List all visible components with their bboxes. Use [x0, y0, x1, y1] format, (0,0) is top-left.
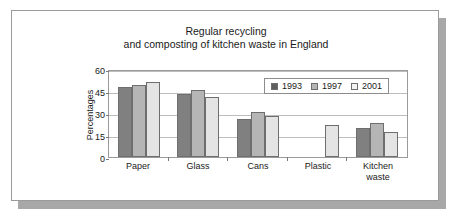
y-axis-tick-mark: [106, 159, 109, 160]
x-axis-tick-labels: PaperGlassCansPlasticKitchen waste: [108, 161, 408, 183]
legend-label: 2001: [362, 81, 382, 91]
legend-swatch-1993: [271, 83, 278, 90]
legend-swatch-2001: [351, 83, 358, 90]
bar: [132, 85, 146, 157]
chart-legend: 199319972001: [264, 78, 389, 94]
chart-card: Regular recycling and composting of kitc…: [11, 10, 439, 201]
bar: [384, 132, 398, 157]
legend-item: 2001: [351, 81, 382, 91]
chart-title: Regular recycling and composting of kitc…: [12, 25, 440, 51]
legend-label: 1993: [282, 81, 302, 91]
x-axis-tick-label: Plastic: [288, 161, 348, 183]
bar: [118, 87, 132, 157]
x-axis-tick-label: Glass: [168, 161, 228, 183]
y-axis-tick-label: 30: [75, 110, 105, 120]
bar: [325, 125, 339, 157]
legend-item: 1997: [311, 81, 342, 91]
bar: [251, 112, 265, 157]
bar: [370, 123, 384, 157]
bar-group: [169, 71, 229, 157]
bar: [237, 119, 251, 157]
x-axis-tick-label: Kitchen waste: [348, 161, 408, 183]
x-axis-tick-label: Cans: [228, 161, 288, 183]
bar: [205, 97, 219, 157]
bar: [191, 90, 205, 157]
legend-swatch-1997: [311, 83, 318, 90]
y-axis-tick-label: 0: [75, 154, 105, 164]
bar: [265, 116, 279, 157]
bar-group: [109, 71, 169, 157]
figure-root: Regular recycling and composting of kitc…: [0, 0, 454, 217]
legend-label: 1997: [322, 81, 342, 91]
x-axis-tick-label: Paper: [108, 161, 168, 183]
y-axis-tick-label: 15: [75, 132, 105, 142]
y-axis-tick-label: 60: [75, 66, 105, 76]
bar: [146, 82, 160, 157]
bar: [177, 94, 191, 157]
legend-item: 1993: [271, 81, 302, 91]
plot-area: Percentages 015304560 199319972001: [108, 70, 408, 158]
bar: [356, 128, 370, 157]
y-axis-tick-label: 45: [75, 88, 105, 98]
